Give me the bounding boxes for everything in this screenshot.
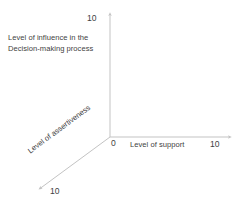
axes-drawing <box>0 0 240 208</box>
origin-tick: 0 <box>111 138 116 148</box>
horizontal-axis-label: Level of support <box>130 140 184 151</box>
vertical-axis-max-tick: 10 <box>87 13 97 23</box>
diagram-canvas: Level of influence in theDecision-making… <box>0 0 240 208</box>
horizontal-axis-max-tick: 10 <box>210 139 220 149</box>
diagonal-axis-line <box>40 137 110 189</box>
vertical-axis-label-line2: Decision-making process <box>8 44 112 55</box>
diagonal-axis-max-tick: 10 <box>50 186 60 196</box>
vertical-axis-label-line1: Level of influence in the <box>8 33 88 42</box>
vertical-axis-label: Level of influence in theDecision-making… <box>8 33 112 54</box>
